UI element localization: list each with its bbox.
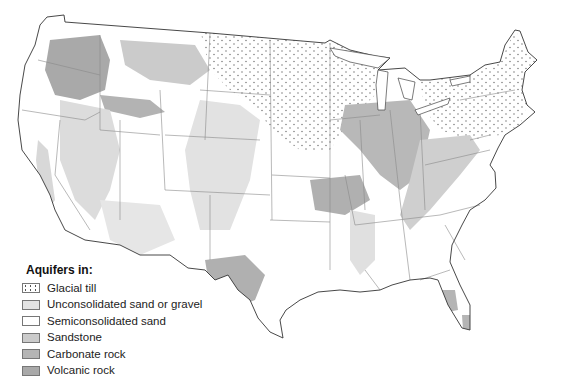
legend-item-sandstone: Sandstone	[8, 330, 208, 347]
legend-label: Volcanic rock	[47, 364, 115, 377]
legend-item-unconsolidated-sand-gravel: Unconsolidated sand or gravel	[8, 297, 208, 314]
sandstone-swatch	[22, 333, 40, 343]
carbonate-florida-south	[462, 315, 470, 330]
nc-coastal	[485, 200, 496, 228]
carbonate-florida	[440, 290, 458, 312]
carbonate-rock-swatch	[22, 349, 40, 359]
legend-item-glacial-till: Glacial till	[8, 280, 208, 297]
semiconsolidated-sand-swatch	[22, 316, 40, 326]
legend-label: Glacial till	[47, 282, 96, 295]
glacial-till-northeast	[420, 30, 537, 140]
volcanic-rock-swatch	[22, 366, 40, 376]
unconsolidated-sand-gravel-swatch	[22, 300, 40, 310]
legend-label: Semiconsolidated sand	[47, 315, 166, 328]
legend-item-carbonate-rock: Carbonate rock	[8, 346, 208, 363]
glacial-till-swatch	[22, 283, 40, 293]
legend-label: Carbonate rock	[47, 348, 126, 361]
legend-item-volcanic-rock: Volcanic rock	[8, 363, 208, 379]
legend-title: Aquifers in:	[26, 263, 208, 277]
legend-label: Unconsolidated sand or gravel	[47, 298, 202, 311]
legend-label: Sandstone	[47, 331, 102, 344]
map-legend: Aquifers in: Glacial till Unconsolidated…	[8, 263, 208, 379]
legend-item-semiconsolidated-sand: Semiconsolidated sand	[8, 313, 208, 330]
